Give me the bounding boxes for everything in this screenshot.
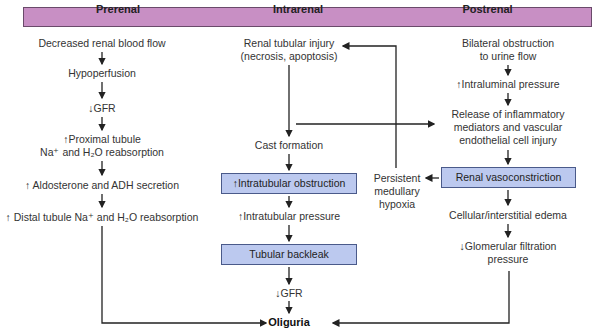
- flow-arrows: [0, 0, 594, 334]
